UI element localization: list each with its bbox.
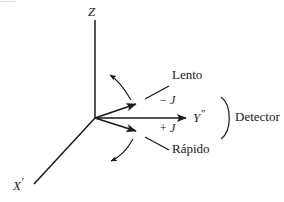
figure-canvas: ...... Z — [0, 0, 284, 202]
diagram-svg — [0, 0, 284, 202]
detector-label: Detector — [235, 110, 280, 123]
precession-arc-upper — [110, 75, 131, 100]
fast-vector-line — [95, 118, 136, 131]
fast-component-label: Rápido — [172, 142, 210, 155]
y-double-prime-mark: ″ — [200, 107, 204, 119]
x-prime-axis-line — [34, 118, 95, 184]
z-axis-label: Z — [88, 5, 95, 18]
y-double-prime-axis-label: Y″ — [193, 108, 205, 124]
slow-vector-line — [95, 104, 136, 118]
x-prime-mark: ' — [21, 175, 23, 187]
x-prime-axis-label: X' — [13, 176, 23, 192]
slow-component-label: Lento — [172, 68, 202, 81]
plus-j-label: + J — [159, 122, 175, 134]
minus-j-label: − J — [159, 94, 175, 106]
detector-bracket — [221, 97, 229, 139]
precession-arc-lower — [111, 139, 133, 161]
rapido-leader-line — [145, 137, 169, 150]
